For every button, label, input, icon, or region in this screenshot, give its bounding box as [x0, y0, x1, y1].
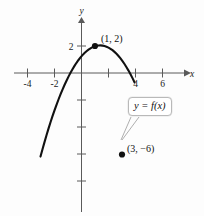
y-axis-arrowhead — [78, 17, 85, 23]
vertex-point-label: (1, 2) — [101, 33, 123, 45]
x-tick-label--4: -4 — [24, 79, 32, 89]
callout-leader-line-1 — [121, 117, 131, 140]
x-axis-label: x — [189, 69, 195, 79]
vertex-point-marker — [92, 43, 98, 49]
x-tick-label--2: -2 — [51, 79, 59, 89]
callout-leader-line-2 — [122, 117, 139, 140]
parabola-curve — [41, 45, 135, 156]
coordinate-plot: x y -4 -2 4 6 2 (1, 2) (3, −6) — [0, 0, 204, 216]
second-point-label: (3, −6) — [127, 143, 154, 155]
second-point-marker — [119, 151, 125, 157]
y-tick-label-2: 2 — [69, 42, 74, 52]
function-callout-box: y = f(x) — [128, 97, 172, 116]
x-tick-label-4: 4 — [133, 79, 138, 89]
graph-figure: x y -4 -2 4 6 2 (1, 2) (3, −6) y = f(x) — [0, 0, 204, 216]
x-tick-label-6: 6 — [160, 79, 165, 89]
y-axis-label: y — [78, 6, 84, 16]
